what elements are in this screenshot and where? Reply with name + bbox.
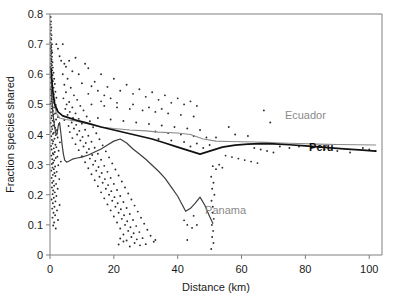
scatter-point (53, 212, 55, 214)
scatter-point (126, 220, 128, 222)
scatter-point (143, 223, 145, 225)
scatter-point (83, 146, 85, 148)
scatter-point (99, 138, 101, 140)
scatter-point (136, 238, 138, 240)
scatter-point (102, 182, 104, 184)
scatter-point (269, 122, 271, 124)
scatter-point (126, 240, 128, 242)
scatter-point (145, 96, 147, 98)
scatter-point (117, 202, 119, 204)
scatter-point (57, 164, 59, 166)
plot-background (50, 14, 382, 255)
scatter-point (211, 188, 213, 190)
scatter-point (110, 118, 112, 120)
scatter-point (211, 236, 213, 238)
y-tick-label: 0.2 (28, 189, 43, 201)
scatter-point (62, 73, 64, 75)
scatter-point (129, 246, 131, 248)
scatter-point (50, 27, 52, 29)
scatter-point (53, 78, 55, 80)
scatter-point (119, 90, 121, 92)
series-label-peru: Peru (309, 141, 333, 153)
scatter-point (118, 212, 120, 214)
scatter-point (247, 135, 249, 137)
scatter-point (158, 99, 160, 101)
scatter-point (161, 125, 163, 127)
scatter-point (62, 43, 64, 45)
scatter-point (183, 103, 185, 105)
scatter-point (191, 227, 193, 229)
scatter-point (124, 224, 126, 226)
scatter-point (130, 199, 132, 201)
scatter-point (113, 78, 115, 80)
scatter-point (132, 219, 134, 221)
scatter-point (114, 196, 116, 198)
scatter-point (126, 207, 128, 209)
scatter-point (76, 134, 78, 136)
scatter-point (158, 138, 160, 140)
scatter-point (51, 126, 53, 128)
scatter-point (91, 154, 93, 156)
scatter-point (51, 199, 53, 201)
scatter-point (113, 215, 115, 217)
scatter-point (133, 232, 135, 234)
scatter-point (51, 163, 53, 165)
scatter-point (186, 239, 188, 241)
scatter-point (202, 147, 204, 149)
x-tick-label: 0 (47, 263, 53, 275)
scatter-point (79, 140, 81, 142)
scatter-point (231, 156, 233, 158)
scatter-point (75, 124, 77, 126)
scatter-point (95, 170, 97, 172)
scatter-point (121, 181, 123, 183)
scatter-point (116, 189, 118, 191)
scatter-point (228, 126, 230, 128)
scatter-point (53, 197, 55, 199)
scatter-point (362, 147, 364, 149)
scatter-point (186, 224, 188, 226)
scatter-point (215, 137, 217, 139)
scatter-point (127, 230, 129, 232)
scatter-point (132, 93, 134, 95)
scatter-point (73, 94, 75, 96)
scatter-point (118, 244, 120, 246)
scatter-point (196, 143, 198, 145)
scatter-point (94, 179, 96, 181)
scatter-point (107, 203, 109, 205)
scatter-point (52, 67, 54, 69)
scatter-point (51, 177, 53, 179)
scatter-point (250, 161, 252, 163)
scatter-point (213, 218, 215, 220)
scatter-point (51, 56, 53, 58)
scatter-point (234, 134, 236, 136)
scatter-point (56, 156, 58, 158)
scatter-point (55, 228, 57, 230)
scatter-point (52, 190, 54, 192)
scatter-point (107, 184, 109, 186)
scatter-point (87, 135, 89, 137)
scatter-point (85, 142, 87, 144)
scatter-point (51, 128, 53, 130)
scatter-point (52, 133, 54, 135)
scatter-point (63, 84, 65, 86)
scatter-point (54, 191, 56, 193)
scatter-point (54, 165, 56, 167)
scatter-point (190, 146, 192, 148)
scatter-point (98, 166, 100, 168)
scatter-point (54, 144, 56, 146)
scatter-point (119, 228, 121, 230)
scatter-point (50, 117, 52, 119)
scatter-point (65, 91, 67, 93)
scatter-point (122, 120, 124, 122)
scatter-point (89, 120, 91, 122)
scatter-point (52, 225, 54, 227)
scatter-point (94, 147, 96, 149)
scatter-point (138, 88, 140, 90)
scatter-point (52, 193, 54, 195)
scatter-point (120, 208, 122, 210)
scatter-point (154, 111, 156, 113)
scatter-point (54, 138, 56, 140)
scatter-point (111, 162, 113, 164)
scatter-point (81, 82, 83, 84)
scatter-point (87, 93, 89, 95)
